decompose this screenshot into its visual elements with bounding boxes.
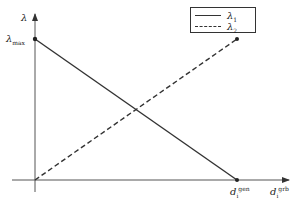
- x-tick-d-gen: digen: [230, 186, 250, 199]
- lambda2-end-point: [235, 37, 239, 41]
- legend-label: λ2: [227, 21, 237, 34]
- y-tick-lambda-max: λmax: [6, 34, 25, 46]
- dashed-line-swatch-icon: [195, 26, 221, 27]
- x-axis-sup: grb: [278, 185, 289, 192]
- legend: λ1 λ2: [190, 7, 256, 33]
- lambda-max-point: [33, 37, 37, 41]
- x-axis-sub: i: [276, 192, 278, 199]
- x-axis-label: digrb: [270, 186, 289, 199]
- legend-item-lambda2: λ2: [195, 20, 253, 32]
- y-tick-sub: max: [12, 39, 25, 46]
- y-axis-label: λ: [21, 13, 27, 23]
- x-tick-sub: i: [236, 192, 238, 199]
- d-gen-point: [235, 178, 239, 182]
- x-tick-sup: gen: [238, 185, 249, 192]
- solid-line-swatch-icon: [195, 15, 221, 16]
